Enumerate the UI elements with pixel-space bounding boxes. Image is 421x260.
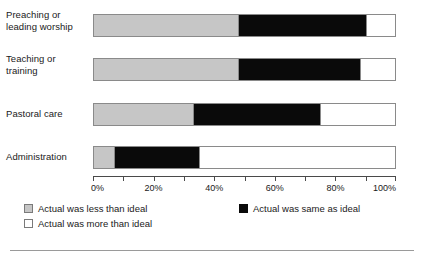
chart-row: Pastoral care (0, 103, 421, 126)
x-axis-tick-label: 80% (326, 183, 344, 193)
legend-swatch-less-icon (24, 204, 33, 213)
legend-item-same-as-ideal: Actual was same as ideal (239, 203, 360, 214)
segment-divider-2 (199, 147, 200, 168)
chart-row: Teaching or training (0, 58, 421, 81)
bar-teaching-or-training (93, 58, 396, 81)
category-label: Preaching or leading worship (6, 9, 88, 32)
category-label-line1: Teaching or (6, 53, 88, 65)
category-label: Pastoral care (6, 108, 88, 120)
category-label-line2: leading worship (6, 21, 88, 33)
x-axis-tick (366, 176, 367, 181)
segment-divider-1 (238, 59, 239, 80)
category-label-line1: Administration (6, 151, 88, 163)
x-axis-tick (214, 176, 215, 181)
x-axis: 0%20%40%60%80%100% (0, 176, 421, 200)
legend-swatch-more-icon (24, 219, 33, 228)
bar-administration (93, 146, 396, 169)
x-axis-tick (275, 176, 276, 181)
segment-divider-2 (360, 59, 361, 80)
x-axis-tick (154, 176, 155, 181)
segment-divider-1 (114, 147, 115, 168)
segment-divider-2 (366, 15, 367, 36)
x-axis-tick-label: 60% (266, 183, 284, 193)
chart-row: Administration (0, 146, 421, 169)
chart-legend: Actual was less than ideal Actual was mo… (0, 203, 421, 243)
segment-less-than-ideal (94, 59, 239, 80)
segment-more-than-ideal (367, 15, 396, 36)
legend-label-same: Actual was same as ideal (253, 203, 360, 214)
segment-less-than-ideal (94, 15, 239, 36)
segment-same-as-ideal (194, 104, 321, 125)
x-axis-tick-label: 20% (145, 183, 163, 193)
x-axis-tick (395, 176, 396, 181)
legend-label-more: Actual was more than ideal (38, 218, 152, 229)
segment-same-as-ideal (239, 15, 366, 36)
x-axis-tick-label: 40% (205, 183, 223, 193)
x-axis-tick-label: 100% (373, 183, 396, 193)
bar-pastoral-care (93, 103, 396, 126)
legend-swatch-same-icon (239, 204, 248, 213)
segment-divider-1 (238, 15, 239, 36)
category-label: Teaching or training (6, 53, 88, 76)
x-axis-tick (335, 176, 336, 181)
x-axis-tick-label: 0% (91, 183, 104, 193)
segment-divider-1 (193, 104, 194, 125)
segment-same-as-ideal (239, 59, 360, 80)
segment-more-than-ideal (321, 104, 396, 125)
segment-same-as-ideal (115, 147, 200, 168)
bottom-divider (10, 250, 414, 251)
x-axis-tick (184, 176, 185, 181)
x-axis-tick (305, 176, 306, 181)
segment-more-than-ideal (200, 147, 396, 168)
legend-label-less: Actual was less than ideal (38, 203, 147, 214)
plot-area: Preaching or leading worship Teaching or… (0, 0, 421, 176)
chart-row: Preaching or leading worship (0, 14, 421, 37)
legend-item-more-than-ideal: Actual was more than ideal (24, 218, 152, 229)
segment-divider-2 (320, 104, 321, 125)
x-axis-tick (93, 176, 94, 181)
legend-item-less-than-ideal: Actual was less than ideal (24, 203, 147, 214)
segment-less-than-ideal (94, 104, 194, 125)
bar-preaching-or-leading-worship (93, 14, 396, 37)
category-label: Administration (6, 151, 88, 163)
category-label-line1: Preaching or (6, 9, 88, 21)
category-label-line1: Pastoral care (6, 108, 88, 120)
x-axis-tick (245, 176, 246, 181)
segment-less-than-ideal (94, 147, 115, 168)
segment-more-than-ideal (361, 59, 396, 80)
stacked-bar-chart: Preaching or leading worship Teaching or… (0, 0, 421, 260)
x-axis-tick (123, 176, 124, 181)
category-label-line2: training (6, 65, 88, 77)
